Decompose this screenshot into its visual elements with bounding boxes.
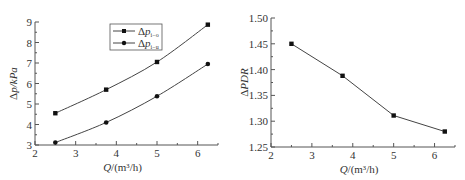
data-point: [391, 113, 395, 117]
legend: Δpi−oΔpi−u: [110, 24, 162, 50]
x-tick-label: 3: [309, 149, 315, 161]
figure: 234563456789Q/(m³/h)Δp/kPaΔpi−oΔpi−u 234…: [0, 0, 465, 180]
data-point: [155, 60, 159, 64]
left-chart: 234563456789Q/(m³/h)Δp/kPaΔpi−oΔpi−u: [7, 16, 218, 174]
series-line: [291, 44, 444, 132]
x-tick-label: 6: [432, 149, 438, 161]
x-tick-label: 4: [350, 149, 356, 161]
data-point: [206, 22, 210, 26]
right-chart: 234561.251.301.351.401.451.50Q/(m³/h)ΔPD…: [238, 12, 455, 176]
y-tick-label: 1.45: [249, 38, 269, 50]
data-point: [289, 42, 293, 46]
y-tick-label: 7: [27, 57, 33, 69]
x-tick-label: 5: [154, 147, 160, 159]
y-tick-label: 1.25: [249, 141, 269, 153]
y-tick-label: 1.35: [249, 89, 269, 101]
y-tick-label: 8: [27, 37, 33, 49]
y-tick-label: 5: [27, 98, 33, 110]
y-tick-label: 9: [27, 16, 33, 28]
x-axis-label: Q/(m³/h): [340, 163, 379, 176]
data-point: [104, 120, 109, 125]
y-tick-label: 1.50: [249, 12, 269, 24]
y-tick-label: 6: [27, 78, 33, 90]
y-axis-label: Δp/kPa: [7, 67, 19, 100]
data-point: [206, 62, 211, 67]
x-tick-label: 5: [391, 149, 397, 161]
data-point: [104, 87, 108, 91]
data-point: [443, 129, 447, 133]
data-point: [53, 140, 58, 145]
x-axis-label: Q/(m³/h): [103, 161, 142, 174]
data-point: [53, 111, 57, 115]
y-tick-label: 4: [27, 119, 33, 131]
y-tick-label: 1.40: [249, 64, 269, 76]
x-tick-label: 2: [268, 149, 274, 161]
x-tick-label: 2: [32, 147, 38, 159]
y-tick-label: 3: [27, 139, 33, 151]
x-tick-label: 3: [73, 147, 79, 159]
data-point: [340, 74, 344, 78]
x-tick-label: 4: [114, 147, 120, 159]
x-tick-label: 6: [195, 147, 201, 159]
y-axis-label: ΔPDR: [238, 68, 250, 97]
data-point: [155, 94, 160, 99]
y-tick-label: 1.30: [249, 115, 269, 127]
